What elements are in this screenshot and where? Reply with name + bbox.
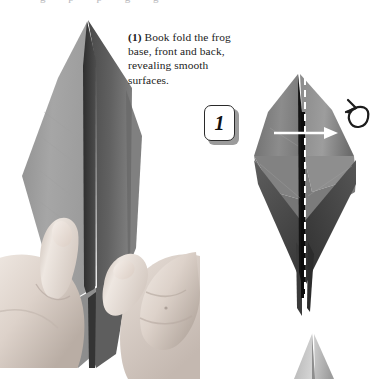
caption-body: Book fold the frog base, front and back,… (128, 31, 231, 86)
step-number-badge: 1 (204, 105, 242, 147)
clipped-text-bleed: g p p g g (40, 0, 330, 3)
diagram-bottom-tail-right (307, 242, 314, 312)
paper-lower-spine (88, 292, 96, 368)
diagram-upper-right-facet (300, 74, 354, 156)
skin-mark (164, 306, 167, 309)
paper-center-spine (83, 21, 96, 302)
diagram-center-spine (301, 112, 305, 298)
corner-tip-right-facet (314, 334, 334, 379)
photo-frog-base-diagram (252, 72, 364, 320)
corner-tip-left-facet (294, 334, 315, 379)
photo-next-step-tip (288, 330, 350, 379)
step-badge-box: 1 (204, 105, 235, 141)
instruction-caption: (1) Book fold the frog base, front and b… (128, 30, 250, 87)
caption-step-marker: (1) (128, 31, 142, 43)
step-badge-label: 1 (215, 113, 225, 133)
origami-instruction-page: g p p g g (0, 0, 373, 379)
paper-back-flap (126, 90, 142, 268)
